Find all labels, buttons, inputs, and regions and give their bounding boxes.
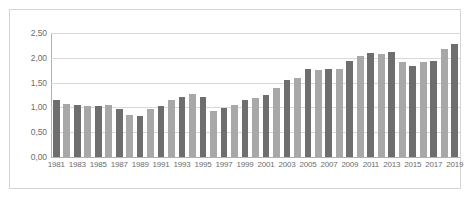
y-tick-label: 0,50 bbox=[13, 128, 47, 137]
bar-slot bbox=[166, 33, 176, 157]
bar bbox=[357, 56, 364, 157]
bar-slot bbox=[187, 33, 197, 157]
bar bbox=[252, 98, 259, 157]
bar bbox=[367, 53, 374, 157]
x-tick-label: 1999 bbox=[237, 161, 254, 169]
x-tick-label: 1995 bbox=[195, 161, 212, 169]
bar-slot bbox=[229, 33, 239, 157]
bar-slot bbox=[135, 33, 145, 157]
x-axis-line bbox=[51, 157, 460, 158]
bar bbox=[336, 69, 343, 157]
bar bbox=[378, 54, 385, 157]
bar-slot bbox=[198, 33, 208, 157]
bar-slot bbox=[93, 33, 103, 157]
bar bbox=[346, 61, 353, 157]
bar bbox=[126, 115, 133, 157]
x-tick-label: 1997 bbox=[216, 161, 233, 169]
bar-slot bbox=[156, 33, 166, 157]
x-tick-label: 2015 bbox=[404, 161, 421, 169]
bar-slot bbox=[114, 33, 124, 157]
bar-slot bbox=[124, 33, 134, 157]
x-tick-label: 2011 bbox=[363, 161, 379, 169]
bar bbox=[399, 62, 406, 157]
x-tick-label: 2003 bbox=[278, 161, 295, 169]
bar bbox=[441, 49, 448, 157]
bar bbox=[325, 69, 332, 157]
y-tick-label: 0,00 bbox=[13, 153, 47, 162]
bar bbox=[168, 100, 175, 157]
bar-slot bbox=[240, 33, 250, 157]
bar bbox=[158, 106, 165, 157]
bar-slot bbox=[376, 33, 386, 157]
x-tick-label: 1981 bbox=[48, 161, 65, 169]
bar bbox=[137, 116, 144, 157]
bar bbox=[273, 88, 280, 157]
bar bbox=[200, 97, 207, 157]
x-tick-label: 1991 bbox=[153, 161, 170, 169]
bar bbox=[231, 105, 238, 157]
bar-slot bbox=[387, 33, 397, 157]
x-tick-label: 2001 bbox=[257, 161, 274, 169]
x-tick-label: 2005 bbox=[299, 161, 316, 169]
bar-slot bbox=[271, 33, 281, 157]
bar bbox=[189, 94, 196, 157]
bar bbox=[221, 108, 228, 157]
bar-slot bbox=[418, 33, 428, 157]
bar bbox=[294, 78, 301, 157]
bar-slot bbox=[334, 33, 344, 157]
bar-series bbox=[51, 33, 460, 157]
bar-slot bbox=[439, 33, 449, 157]
bar bbox=[284, 80, 291, 157]
bar-slot bbox=[145, 33, 155, 157]
x-tick-label: 1993 bbox=[174, 161, 191, 169]
bar bbox=[430, 61, 437, 157]
bar-slot bbox=[345, 33, 355, 157]
bar bbox=[63, 104, 70, 157]
bar-slot bbox=[366, 33, 376, 157]
bar-slot bbox=[303, 33, 313, 157]
x-tick-label: 2019 bbox=[446, 161, 463, 169]
x-tick-label: 1983 bbox=[69, 161, 86, 169]
bar bbox=[388, 52, 395, 157]
y-tick-label: 2,00 bbox=[13, 54, 47, 63]
bar bbox=[409, 66, 416, 157]
bar bbox=[74, 105, 81, 157]
x-tick-label: 1985 bbox=[90, 161, 107, 169]
bar bbox=[315, 70, 322, 157]
bar-slot bbox=[313, 33, 323, 157]
bar bbox=[147, 109, 154, 157]
bar bbox=[242, 100, 249, 157]
bar bbox=[210, 111, 217, 157]
bar-slot bbox=[449, 33, 459, 157]
bar-slot bbox=[324, 33, 334, 157]
chart-frame: 2,502,001,501,000,500,00 198119831985198… bbox=[9, 9, 461, 189]
bar-slot bbox=[407, 33, 417, 157]
bar-slot bbox=[177, 33, 187, 157]
bar bbox=[420, 62, 427, 157]
x-tick-label: 2007 bbox=[320, 161, 337, 169]
x-axis-tick-labels: 1981198319851987198919911993199519971999… bbox=[51, 161, 460, 175]
bar bbox=[179, 97, 186, 158]
bar bbox=[305, 69, 312, 157]
bar-slot bbox=[355, 33, 365, 157]
bar-slot bbox=[208, 33, 218, 157]
bar-slot bbox=[219, 33, 229, 157]
x-tick-label: 2009 bbox=[341, 161, 358, 169]
bar bbox=[263, 95, 270, 157]
bar bbox=[95, 106, 102, 157]
bar bbox=[116, 109, 123, 157]
y-tick-label: 1,50 bbox=[13, 79, 47, 88]
y-tick-label: 2,50 bbox=[13, 29, 47, 38]
bar-slot bbox=[261, 33, 271, 157]
bar-slot bbox=[397, 33, 407, 157]
bar bbox=[53, 100, 60, 157]
bar-slot bbox=[282, 33, 292, 157]
bar bbox=[105, 105, 112, 157]
bar-slot bbox=[61, 33, 71, 157]
x-tick-label: 1987 bbox=[111, 161, 128, 169]
x-tick-label: 1989 bbox=[132, 161, 149, 169]
bar-slot bbox=[428, 33, 438, 157]
bar-slot bbox=[103, 33, 113, 157]
bar bbox=[84, 106, 91, 157]
y-tick-label: 1,00 bbox=[13, 103, 47, 112]
